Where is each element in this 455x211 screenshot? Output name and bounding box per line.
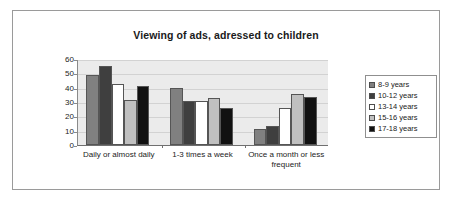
bar <box>99 66 112 145</box>
y-axis-tick-label: 60 <box>65 56 74 64</box>
legend-item-label: 10-12 years <box>378 92 418 100</box>
bar <box>266 126 279 145</box>
y-axis-tick-label: 10 <box>65 128 74 136</box>
legend-item: 13-14 years <box>369 101 433 112</box>
chart-card: Viewing of ads, adressed to children 010… <box>12 10 440 190</box>
bars-layer <box>78 60 328 145</box>
bar <box>124 100 137 145</box>
y-axis-tick-label: 40 <box>65 85 74 93</box>
legend-swatch-icon <box>369 126 375 132</box>
bar <box>304 97 317 145</box>
bar <box>112 84 125 145</box>
bar-group <box>170 60 233 145</box>
y-axis-tick-label: 20 <box>65 113 74 121</box>
legend-item: 15-16 years <box>369 112 433 123</box>
chart-legend: 8-9 years10-12 years13-14 years15-16 yea… <box>365 75 437 138</box>
y-axis-tick-label: 30 <box>65 99 74 107</box>
bar <box>183 101 196 145</box>
legend-item: 17-18 years <box>369 123 433 134</box>
x-axis-labels: Daily or almost daily1-3 times a weekOnc… <box>77 150 328 184</box>
bar <box>195 101 208 145</box>
legend-item-label: 15-16 years <box>378 114 418 122</box>
bar-group <box>254 60 317 145</box>
legend-swatch-icon <box>369 104 375 110</box>
category-tick-mark <box>162 145 163 148</box>
legend-swatch-icon <box>369 115 375 121</box>
legend-swatch-icon <box>369 93 375 99</box>
bar <box>279 108 292 145</box>
bar <box>137 86 150 145</box>
legend-swatch-icon <box>369 82 375 88</box>
bar-group <box>86 60 149 145</box>
bar <box>208 98 221 145</box>
legend-item-label: 17-18 years <box>378 125 418 133</box>
legend-item-label: 13-14 years <box>378 103 418 111</box>
bar <box>86 75 99 145</box>
bar <box>254 129 267 145</box>
legend-item: 10-12 years <box>369 90 433 101</box>
bar <box>291 94 304 145</box>
y-axis-tick-mark <box>74 146 77 147</box>
category-tick-mark <box>245 145 246 148</box>
plot-area <box>77 60 328 146</box>
y-axis-tick-label: 50 <box>65 70 74 78</box>
legend-item-label: 8-9 years <box>378 81 409 89</box>
chart-title: Viewing of ads, adressed to children <box>13 29 439 41</box>
bar <box>170 88 183 145</box>
legend-item: 8-9 years <box>369 79 433 90</box>
bar <box>220 108 233 145</box>
x-axis-category-label: Once a month or less frequent <box>236 150 336 170</box>
y-axis-labels: 0102030405060 <box>53 60 74 146</box>
